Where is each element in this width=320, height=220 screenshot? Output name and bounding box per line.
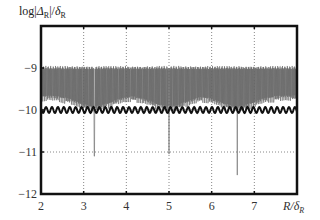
- line-chart: 234567−9−10−11−12 R/δR: [0, 0, 320, 220]
- y-tick-label: −9: [24, 61, 37, 75]
- y-tick-label: −12: [18, 187, 37, 201]
- y-tick-label: −11: [19, 145, 37, 159]
- x-tick-label: 6: [209, 199, 215, 213]
- x-tick-label: 3: [81, 199, 87, 213]
- x-tick-label: 2: [38, 199, 44, 213]
- thick-series-line: [41, 107, 297, 113]
- svg-text:R/δR: R/δR: [282, 199, 304, 215]
- x-tick-label: 5: [166, 199, 172, 213]
- y-tick-label: −10: [18, 103, 37, 117]
- x-tick-label: 4: [123, 199, 129, 213]
- x-tick-label: 7: [251, 199, 257, 213]
- axis-ticks: 234567−9−10−11−12: [18, 26, 257, 213]
- x-axis-label: R/δR: [282, 199, 304, 215]
